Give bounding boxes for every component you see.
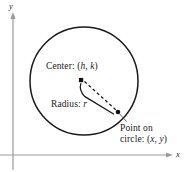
boundary-point-close: ) — [164, 134, 167, 144]
radius-var-r: r — [83, 99, 87, 109]
center-point-dot — [79, 78, 83, 82]
circle-outline — [30, 27, 138, 135]
center-label: Center: (h, k) — [46, 61, 98, 72]
x-axis-label: x — [176, 149, 180, 160]
circle-point-dot — [116, 110, 121, 115]
radius-label: Radius: r — [51, 99, 87, 110]
boundary-point-line-2: circle: (x, y) — [120, 134, 167, 145]
center-label-text: Center: ( — [46, 61, 80, 71]
figure-canvas — [0, 0, 186, 172]
boundary-point-line-2-text: circle: ( — [120, 134, 150, 144]
y-axis-label: y — [9, 1, 13, 12]
y-axis-arrowhead — [10, 12, 15, 19]
x-axis-arrowhead — [166, 152, 173, 157]
coordinate-axes — [0, 12, 173, 170]
radius-label-text: Radius: — [51, 99, 83, 109]
boundary-point-label: Point on circle: (x, y) — [120, 123, 167, 145]
center-label-close: ) — [95, 61, 98, 71]
boundary-point-line-1: Point on — [120, 123, 167, 134]
circle-definition-figure: Center: (h, k) Radius: r Point on circle… — [0, 0, 186, 172]
